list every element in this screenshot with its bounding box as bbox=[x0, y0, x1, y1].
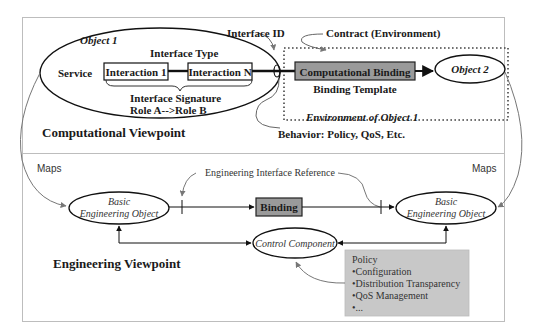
policy-item: •Configuration bbox=[352, 266, 412, 277]
interaction-n-label: Interaction N bbox=[188, 66, 251, 78]
behavior-label: Behavior: Policy, QoS, Etc. bbox=[278, 128, 405, 140]
contract-label: Contract (Environment) bbox=[326, 27, 441, 40]
policy-item: •... bbox=[352, 302, 363, 313]
interaction-1-label: Interaction 1 bbox=[106, 66, 167, 78]
interface-id-label: Interface ID bbox=[227, 27, 285, 39]
object1-label: Object 1 bbox=[80, 34, 118, 46]
control-component-label: Control Component bbox=[255, 238, 335, 249]
engineering-interface-reference-label: Engineering Interface Reference bbox=[205, 167, 335, 178]
interface-type-label: Interface Type bbox=[150, 47, 218, 59]
maps-right-curve bbox=[498, 72, 522, 207]
beo-right-line2: Engineering Object bbox=[406, 208, 486, 219]
role-label: Role A-->Role B bbox=[130, 104, 207, 116]
policy-item: •QoS Management bbox=[352, 290, 428, 301]
maps-right-label: Maps bbox=[472, 163, 496, 174]
engineering-viewpoint-label: Engineering Viewpoint bbox=[53, 256, 181, 271]
odp-viewpoint-diagram: Object 1 Service Interface Type Interact… bbox=[0, 0, 554, 336]
interface-reference-pointer-left bbox=[182, 173, 196, 196]
binding-label: Binding bbox=[260, 201, 298, 213]
interface-signature-label: Interface Signature bbox=[130, 92, 221, 104]
beo-left-line2: Engineering Object bbox=[79, 208, 159, 219]
environment-label: Environment of Object 1 bbox=[305, 111, 418, 123]
beo-right-line1: Basic bbox=[435, 196, 458, 207]
policy-item: •Distribution Transparency bbox=[352, 278, 460, 289]
maps-left-label: Maps bbox=[37, 163, 61, 174]
policy-title: Policy bbox=[352, 254, 378, 265]
service-label: Service bbox=[58, 67, 92, 79]
policy-pointer bbox=[296, 262, 345, 283]
beo-left-line1: Basic bbox=[108, 196, 131, 207]
computational-binding-label: Computational Binding bbox=[300, 66, 411, 78]
object2-label: Object 2 bbox=[451, 63, 489, 75]
computational-viewpoint-label: Computational Viewpoint bbox=[42, 125, 186, 140]
binding-template-label: Binding Template bbox=[313, 83, 397, 95]
interface-reference-pointer-right bbox=[338, 173, 380, 207]
